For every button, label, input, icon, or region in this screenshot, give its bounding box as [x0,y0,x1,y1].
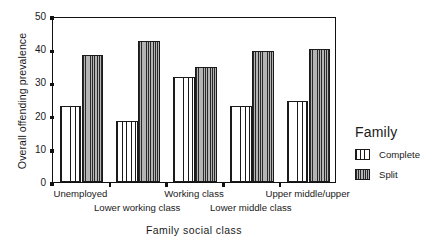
y-tick-label: 50 [20,11,46,22]
legend-item-split: Split [355,169,441,180]
x-axis-category-label: Upper middle/upper [265,188,349,199]
bar-split-4 [252,51,274,182]
y-tick-label: 20 [20,111,46,122]
x-axis-category-label: Lower middle class [210,202,292,213]
legend-title: Family [355,124,441,140]
x-axis-category-label: Unemployed [53,188,107,199]
y-tick-mark [50,149,54,152]
x-axis-category-label: Lower working class [94,202,180,213]
legend-label-complete: Complete [379,149,420,160]
x-tick-mark [279,183,282,187]
x-tick-mark [165,183,168,187]
legend-label-split: Split [379,169,398,180]
y-tick-mark [50,50,54,53]
legend-swatch-split-icon [355,169,370,180]
y-tick-mark [50,182,54,185]
y-tick-mark [50,116,54,119]
plot-area: 01020304050 [52,17,336,183]
legend-swatch-complete-icon [355,149,370,160]
y-tick-label: 10 [20,144,46,155]
legend: Family Complete Split [355,124,441,189]
bar-complete-5 [287,101,309,182]
y-tick-mark [50,83,54,86]
x-tick-mark [109,183,112,187]
bar-complete-4 [230,106,252,182]
bar-split-1 [82,55,104,182]
x-axis-title: Family social class [52,224,336,236]
bar-chart-figure: Overall offending prevalence 01020304050… [0,0,441,248]
y-tick-label: 0 [20,177,46,188]
legend-item-complete: Complete [355,149,441,160]
bar-split-3 [195,67,217,182]
bar-complete-1 [60,106,82,182]
y-axis-title: Overall offending prevalence [16,16,28,186]
y-tick-label: 40 [20,44,46,55]
y-tick-label: 30 [20,77,46,88]
x-axis-category-label: Working class [164,188,224,199]
bar-complete-2 [116,121,138,182]
bar-split-2 [138,41,160,182]
bar-split-5 [309,49,331,182]
y-tick-mark [50,16,54,19]
x-tick-mark [222,183,225,187]
bar-complete-3 [173,77,195,182]
